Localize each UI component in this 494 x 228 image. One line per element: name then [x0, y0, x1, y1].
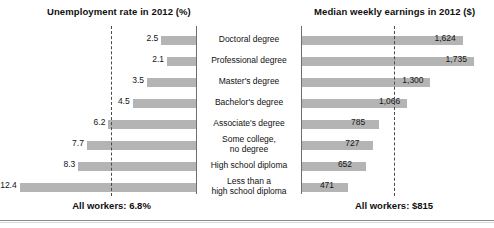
- earnings-value-label: 727: [345, 137, 359, 149]
- category-label-column: Doctoral degreeProfessional degreeMaster…: [197, 26, 301, 194]
- unemployment-value-label: 7.7: [72, 137, 84, 149]
- earnings-value-label: 1,300: [402, 74, 423, 86]
- category-label: Master's degree: [197, 77, 301, 87]
- bar-track: [4, 162, 197, 171]
- bottom-divider: [0, 220, 494, 221]
- earnings-bar-row: 652: [301, 156, 490, 177]
- earnings-bar: [301, 141, 373, 150]
- unemployment-value-label: 4.5: [118, 95, 130, 107]
- category-label: Doctoral degree: [197, 35, 301, 45]
- unemployment-bar: [161, 36, 197, 45]
- earnings-bar: [301, 162, 366, 171]
- category-label: Bachelor's degree: [197, 98, 301, 108]
- unemployment-value-label: 6.2: [94, 116, 106, 128]
- unemployment-bar: [133, 99, 197, 108]
- earnings-value-label: 652: [338, 158, 352, 170]
- left-chart-title: Unemployment rate in 2012 (%): [47, 6, 191, 17]
- unemployment-bar-row: 6.2: [4, 114, 197, 135]
- unemployment-bar-row: 4.5: [4, 93, 197, 114]
- earnings-bar-row: 1,624: [301, 30, 490, 51]
- category-label: Less than ahigh school diploma: [197, 177, 301, 196]
- unemployment-value-label: 2.5: [146, 32, 158, 44]
- earnings-value-label: 785: [351, 116, 365, 128]
- bar-track: [301, 36, 490, 45]
- bottom-divider-shadow: [0, 222, 494, 223]
- bar-track: [4, 36, 197, 45]
- earnings-bar-row: 1,735: [301, 51, 490, 72]
- bar-track: [4, 57, 197, 66]
- bar-track: [4, 183, 197, 192]
- earnings-plot-area: 1,6241,7351,3001,066785727652471: [301, 26, 490, 194]
- unemployment-bar: [167, 57, 197, 66]
- unemployment-bar-row: 2.5: [4, 30, 197, 51]
- earnings-value-label: 1,624: [435, 32, 456, 44]
- category-label: High school diploma: [197, 161, 301, 171]
- earnings-bar-row: 471: [301, 177, 490, 198]
- bar-track: [4, 99, 197, 108]
- bar-track: [301, 120, 490, 129]
- left-footer-label: All workers: 6.8%: [60, 200, 163, 211]
- earnings-bar: [301, 120, 379, 129]
- unemployment-bar: [20, 183, 197, 192]
- chart-figure: Unemployment rate in 2012 (%) Median wee…: [0, 0, 494, 228]
- earnings-value-label: 1,066: [379, 95, 400, 107]
- bar-track: [4, 141, 197, 150]
- left-average-reference-line: [111, 26, 112, 196]
- earnings-bar-row: 1,066: [301, 93, 490, 114]
- unemployment-value-label: 12.4: [0, 179, 17, 191]
- unemployment-value-label: 3.5: [132, 74, 144, 86]
- right-footer-label: All workers: $815: [330, 200, 458, 211]
- right-average-reference-line: [394, 26, 395, 196]
- unemployment-bar: [87, 141, 197, 150]
- unemployment-plot-area: 2.52.13.54.56.27.78.312.4: [4, 26, 197, 194]
- category-label: Professional degree: [197, 56, 301, 66]
- earnings-value-label: 1,735: [446, 53, 467, 65]
- category-label: Some college,no degree: [197, 135, 301, 154]
- unemployment-bar: [147, 78, 197, 87]
- bar-track: [4, 78, 197, 87]
- bar-track: [301, 162, 490, 171]
- earnings-bar-row: 1,300: [301, 72, 490, 93]
- earnings-bar-row: 727: [301, 135, 490, 156]
- unemployment-bar: [108, 120, 197, 129]
- earnings-value-label: 471: [320, 179, 334, 191]
- unemployment-bar-row: 8.3: [4, 156, 197, 177]
- right-category-axis: [301, 26, 302, 194]
- unemployment-bar-row: 3.5: [4, 72, 197, 93]
- category-label: Associate's degree: [197, 119, 301, 129]
- unemployment-bar-row: 12.4: [4, 177, 197, 198]
- bar-track: [301, 78, 490, 87]
- unemployment-bar-row: 2.1: [4, 51, 197, 72]
- unemployment-bar-row: 7.7: [4, 135, 197, 156]
- right-chart-title: Median weekly earnings in 2012 ($): [314, 6, 475, 17]
- earnings-bar-row: 785: [301, 114, 490, 135]
- unemployment-value-label: 2.1: [152, 53, 164, 65]
- unemployment-bar: [78, 162, 197, 171]
- bar-track: [301, 141, 490, 150]
- unemployment-value-label: 8.3: [63, 158, 75, 170]
